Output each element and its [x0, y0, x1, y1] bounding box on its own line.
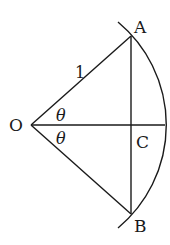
label-C: C — [136, 132, 149, 152]
segment-OB — [31, 125, 131, 214]
sector-diagram: A B O C 1 θ θ — [0, 0, 170, 245]
label-A: A — [133, 17, 147, 37]
label-O: O — [9, 115, 23, 135]
label-angle-top: θ — [56, 106, 66, 125]
label-angle-bottom: θ — [56, 129, 66, 148]
label-radius: 1 — [75, 63, 85, 82]
label-B: B — [134, 216, 147, 236]
